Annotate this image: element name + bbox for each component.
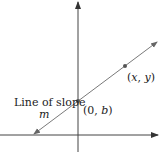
- slope-line: [34, 42, 157, 134]
- general-close: ): [151, 71, 155, 84]
- intercept-close: ): [108, 104, 112, 117]
- general-point: [123, 64, 127, 68]
- intercept-point-label: (0, b): [83, 105, 113, 116]
- general-point-label: (x, y): [127, 72, 155, 83]
- general-sep: ,: [138, 71, 145, 84]
- slope-m-label: m: [39, 109, 49, 120]
- line-of-slope-label: Line of slope: [14, 97, 85, 108]
- intercept-open: (0,: [83, 104, 101, 117]
